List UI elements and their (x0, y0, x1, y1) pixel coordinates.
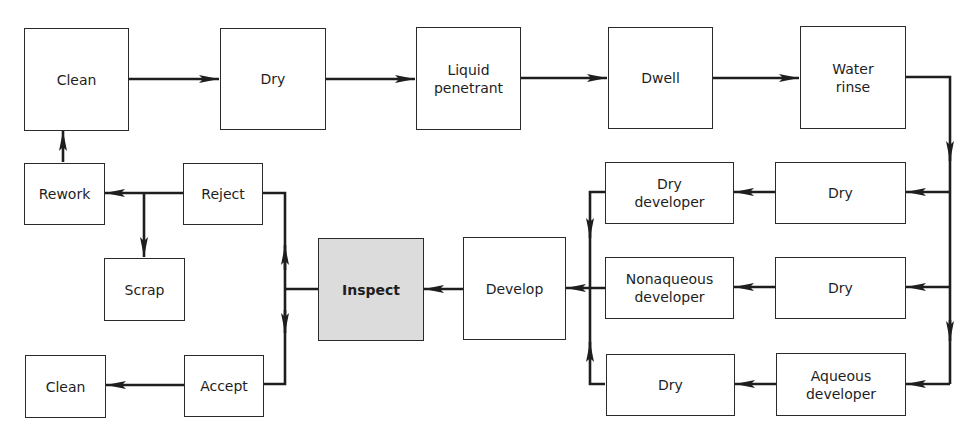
node-inspect: Inspect (318, 238, 424, 341)
node-clean-end: Clean (25, 355, 106, 418)
node-dry-1: Dry (220, 28, 326, 130)
node-label: Dry (658, 376, 683, 394)
node-scrap: Scrap (104, 258, 185, 321)
node-accept: Accept (184, 355, 264, 417)
node-label: Clean (46, 378, 86, 396)
rinse-trunk (905, 77, 950, 384)
node-water-rinse: Water rinse (800, 26, 906, 129)
node-label: Water rinse (832, 60, 873, 96)
node-develop: Develop (463, 237, 566, 340)
node-label: Scrap (125, 281, 165, 299)
node-rework: Rework (24, 163, 105, 225)
node-label: Nonaqueous developer (626, 270, 714, 306)
node-dry-developer: Dry developer (605, 162, 734, 224)
node-label: Dry (828, 279, 853, 297)
node-dry-a: Dry (775, 162, 906, 224)
node-liquid-penetrant: Liquid penetrant (416, 27, 521, 130)
node-label: Dry (828, 184, 853, 202)
node-label: Develop (486, 280, 544, 298)
node-label: Rework (39, 185, 91, 203)
node-nonaqueous-developer: Nonaqueous developer (605, 257, 734, 319)
node-label: Dry developer (634, 175, 704, 211)
node-reject: Reject (183, 163, 263, 225)
node-label: Dry (261, 70, 286, 88)
node-label: Aqueous developer (806, 367, 876, 403)
decision-bus (262, 193, 285, 384)
node-dry-b: Dry (775, 257, 906, 319)
node-aqueous-developer: Aqueous developer (776, 353, 906, 416)
node-clean-start: Clean (24, 28, 129, 131)
node-label: Dwell (641, 69, 680, 87)
node-label: Liquid penetrant (434, 61, 503, 97)
node-dwell: Dwell (608, 27, 713, 129)
node-label: Accept (200, 377, 248, 395)
node-label: Reject (201, 185, 244, 203)
node-label: Clean (57, 71, 97, 89)
node-dry-c: Dry (606, 354, 735, 416)
node-label: Inspect (342, 281, 400, 299)
